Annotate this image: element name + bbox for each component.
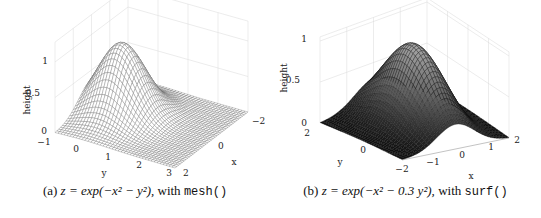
tick-label: 0 [360, 145, 366, 155]
tick-label: −1 [37, 137, 50, 147]
caption-code: mesh() [184, 185, 227, 199]
axis-label: height [279, 63, 289, 93]
figure-panel-a: 10.50−10123−202heightyx (a) z = exp(−x² … [0, 0, 270, 218]
tick-label: 1 [301, 34, 307, 44]
axis-label: y [100, 168, 107, 178]
caption-with: with [438, 183, 464, 198]
tick-label: −2 [395, 164, 408, 174]
caption-label: (a) [43, 183, 57, 198]
tick-label: 2 [304, 128, 310, 138]
caption-label: (b) [303, 183, 318, 198]
figure-panel-b: 10.5020−2−1012heightyx (b) z = exp(−x² −… [270, 0, 541, 218]
tick-label: −2 [252, 116, 265, 126]
axis-label: height [22, 85, 32, 115]
axis-label: y [336, 157, 343, 167]
tick-label: 0 [41, 126, 47, 136]
tick-label: 1 [42, 56, 48, 66]
tick-label: 1 [105, 152, 111, 162]
tick-label: 2 [136, 160, 142, 170]
tick-label: 1 [488, 142, 494, 152]
surf-surface [320, 43, 509, 160]
caption-a: (a) z = exp(−x² − y²), with mesh() [0, 183, 270, 199]
tick-label: 0 [459, 150, 465, 160]
tick-label: 3 [166, 168, 172, 178]
tick-label: 0 [301, 118, 307, 128]
tick-label: 0 [73, 144, 79, 154]
tick-label: 2 [183, 168, 189, 178]
axis-label: x [468, 171, 473, 181]
caption-math: z = exp(−x² − 0.3 y²), [322, 183, 438, 198]
caption-code: surf() [465, 185, 508, 199]
tick-label: −1 [426, 157, 439, 167]
caption-b: (b) z = exp(−x² − 0.3 y²), with surf() [270, 183, 541, 199]
caption-with: with [158, 183, 184, 198]
mesh-plot: 10.50−10123−202heightyx [0, 0, 270, 182]
tick-label: 0 [218, 141, 224, 151]
axis-label: x [231, 157, 236, 167]
tick-label: 2 [514, 135, 520, 145]
caption-math: z = exp(−x² − y²), [61, 183, 158, 198]
surf-plot: 10.5020−2−1012heightyx [270, 0, 541, 182]
